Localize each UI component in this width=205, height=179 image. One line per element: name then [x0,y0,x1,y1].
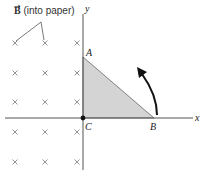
diagram: B (into paper) → y x A B C [0,0,205,179]
field-label: B (into paper) [14,6,75,16]
arrow-head-icon [137,67,147,78]
diagram-canvas [0,0,205,179]
triangle-ABC [83,57,154,118]
field-label-leaders [16,22,44,41]
field-direction-text: (into paper) [21,5,75,16]
point-B-label: B [150,122,156,132]
magnetic-field-crosses [13,41,80,165]
rotation-arrow [142,74,157,115]
point-C-dot [81,116,86,121]
vector-arrow-icon: → [14,3,21,11]
y-axis-label: y [85,4,89,14]
x-axis-label: x [195,113,199,123]
point-C-label: C [85,122,92,132]
point-A-label: A [86,48,92,58]
